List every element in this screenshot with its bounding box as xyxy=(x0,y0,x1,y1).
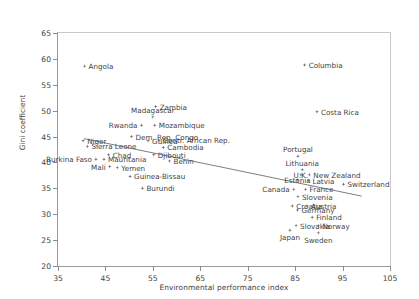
data-point[interactable] xyxy=(167,159,171,163)
data-point-label: Switzerland xyxy=(348,180,390,189)
y-axis-tick xyxy=(53,214,58,215)
x-axis-tick xyxy=(295,266,296,271)
data-point-label: Columbia xyxy=(309,61,343,70)
x-axis-title: Environmental performance index xyxy=(57,283,391,292)
data-point-label: Burkina Faso xyxy=(46,155,92,164)
data-point-label: Angola xyxy=(89,62,114,71)
x-axis-tick-label: 45 xyxy=(101,274,111,283)
x-axis-tick xyxy=(200,266,201,271)
y-axis-tick-label: 25 xyxy=(41,236,51,245)
data-point-label: Yemen xyxy=(121,163,145,172)
data-point[interactable] xyxy=(140,186,144,190)
data-point[interactable] xyxy=(108,165,112,169)
data-point[interactable] xyxy=(304,187,308,191)
y-axis-tick xyxy=(53,33,58,34)
data-point[interactable] xyxy=(303,63,307,67)
x-axis-tick xyxy=(153,266,154,271)
y-axis-tick-label: 60 xyxy=(41,54,51,63)
data-point[interactable] xyxy=(153,123,157,127)
data-point-label: Norway xyxy=(322,221,349,230)
data-point[interactable] xyxy=(316,231,320,235)
data-point[interactable] xyxy=(102,157,106,161)
data-point[interactable] xyxy=(296,195,300,199)
data-point[interactable] xyxy=(294,224,298,228)
data-point[interactable] xyxy=(139,123,143,127)
data-point-label: Japan xyxy=(280,233,300,242)
data-point[interactable] xyxy=(94,157,98,161)
y-axis-tick xyxy=(53,59,58,60)
x-axis-tick xyxy=(390,266,391,271)
data-point-label: Rwanda xyxy=(109,121,138,130)
x-axis-tick xyxy=(105,266,106,271)
data-point-label: Madagascar xyxy=(131,105,175,114)
data-point-label: Portugal xyxy=(283,145,313,154)
data-point-label: Costa Rica xyxy=(321,107,359,116)
data-point[interactable] xyxy=(290,204,294,208)
data-point[interactable] xyxy=(315,110,319,114)
x-axis-tick-label: 95 xyxy=(338,274,348,283)
y-axis-title: Gini coefficient xyxy=(18,73,27,173)
data-point[interactable] xyxy=(151,115,155,119)
y-axis-tick-label: 50 xyxy=(41,106,51,115)
x-axis-tick xyxy=(248,266,249,271)
data-point-label: Estonia xyxy=(284,176,310,185)
x-axis-tick-label: 75 xyxy=(243,274,253,283)
y-axis-tick xyxy=(53,188,58,189)
y-axis-tick-label: 35 xyxy=(41,184,51,193)
data-point[interactable] xyxy=(130,135,134,139)
x-axis-tick-label: 35 xyxy=(53,274,63,283)
plot-area: 2025303540455055606535455565758595105Ang… xyxy=(57,32,391,267)
y-axis-tick-label: 30 xyxy=(41,210,51,219)
data-point-label: Slovenia xyxy=(302,192,333,201)
x-axis-tick-label: 55 xyxy=(148,274,158,283)
data-point-label: Mali xyxy=(91,162,106,171)
data-point[interactable] xyxy=(83,64,87,68)
data-point-label: Burundi xyxy=(146,184,174,193)
y-axis-tick-label: 65 xyxy=(41,29,51,38)
scatter-chart: 2025303540455055606535455565758595105Ang… xyxy=(0,0,419,299)
data-point[interactable] xyxy=(342,182,346,186)
x-axis-tick-label: 85 xyxy=(290,274,300,283)
data-point-label: Mozambique xyxy=(159,121,205,130)
x-axis-tick-label: 65 xyxy=(195,274,205,283)
x-axis-tick xyxy=(58,266,59,271)
y-axis-tick xyxy=(53,85,58,86)
data-point[interactable] xyxy=(161,145,165,149)
y-axis-tick xyxy=(53,137,58,138)
data-point[interactable] xyxy=(292,187,296,191)
data-point-label: Sweden xyxy=(304,235,332,244)
x-axis-tick-label: 105 xyxy=(383,274,398,283)
data-point-label: Benin xyxy=(173,156,193,165)
data-point[interactable] xyxy=(128,174,132,178)
y-axis-tick-label: 20 xyxy=(41,262,51,271)
data-point-label: Canada xyxy=(262,185,289,194)
data-point[interactable] xyxy=(310,215,314,219)
y-axis-tick xyxy=(53,240,58,241)
y-axis-tick-label: 45 xyxy=(41,132,51,141)
data-point-label: Lithuania xyxy=(286,158,319,167)
data-point[interactable] xyxy=(81,139,85,143)
data-point[interactable] xyxy=(152,153,156,157)
y-axis-tick xyxy=(53,111,58,112)
data-point-label: Guinea-Bissau xyxy=(134,172,185,181)
y-axis-tick-label: 55 xyxy=(41,80,51,89)
x-axis-tick xyxy=(343,266,344,271)
data-point[interactable] xyxy=(288,228,292,232)
data-point-label: Latvia xyxy=(312,176,334,185)
data-point[interactable] xyxy=(115,166,119,170)
